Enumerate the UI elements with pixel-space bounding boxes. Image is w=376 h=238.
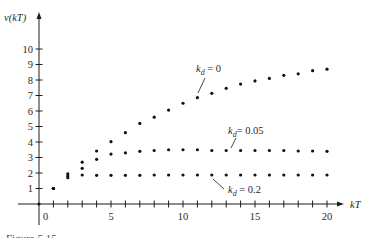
data-point (210, 149, 213, 152)
data-point (282, 173, 285, 176)
data-point (239, 149, 242, 152)
data-point (124, 131, 127, 134)
y-tick-label: 7 (28, 90, 33, 101)
data-point (239, 82, 242, 85)
data-point (167, 108, 170, 111)
y-tick-label: 6 (28, 106, 33, 117)
x-tick-label: 10 (178, 211, 189, 222)
data-point (311, 173, 314, 176)
leader-line (213, 179, 224, 189)
x-tick-label: 0 (43, 211, 48, 222)
data-point (282, 149, 285, 152)
data-point (95, 158, 98, 161)
data-point (196, 173, 199, 176)
x-axis-label: kT (350, 199, 362, 210)
data-point (225, 149, 228, 152)
data-point (153, 116, 156, 119)
data-point (325, 150, 328, 153)
x-tick-label: 5 (108, 211, 113, 222)
axes: kTv(kT) (4, 12, 362, 225)
data-point (325, 173, 328, 176)
series-0 (52, 68, 329, 191)
series-1 (52, 148, 329, 190)
data-point (225, 173, 228, 176)
axis-ticks (36, 49, 328, 208)
data-point (138, 174, 141, 177)
data-point (181, 102, 184, 105)
data-point (210, 173, 213, 176)
data-point (239, 173, 242, 176)
y-tick-label: 8 (28, 75, 33, 86)
series-label: kd = 0.2 (228, 184, 261, 198)
data-point (268, 77, 271, 80)
data-point (109, 152, 112, 155)
x-tick-label: 20 (322, 211, 333, 222)
data-point (124, 174, 127, 177)
data-point (81, 161, 84, 164)
leader-line (231, 138, 236, 148)
series-label: kd = 0 (196, 63, 221, 77)
y-axis-label: v(kT) (4, 12, 27, 24)
data-point (297, 173, 300, 176)
data-point (297, 72, 300, 75)
chart: kTv(kT) 0510152012345678910 kd = 0kd= 0.… (0, 0, 376, 238)
y-tick-label: 9 (28, 59, 33, 70)
data-point (167, 148, 170, 151)
series-label: kd= 0.05 (228, 125, 264, 139)
data-point (268, 149, 271, 152)
data-point (282, 74, 285, 77)
data-point (196, 96, 199, 99)
data-point (253, 173, 256, 176)
x-axis-arrow-icon (337, 202, 344, 207)
data-point (297, 149, 300, 152)
y-axis-arrow-icon (37, 12, 42, 19)
data-point (181, 148, 184, 151)
data-point (225, 87, 228, 90)
series-annotations: kd = 0kd= 0.05kd = 0.2 (196, 63, 264, 198)
data-point (124, 151, 127, 154)
data-points (52, 68, 329, 191)
data-point (268, 173, 271, 176)
data-point (138, 122, 141, 125)
y-tick-label: 4 (28, 137, 34, 148)
data-point (109, 140, 112, 143)
data-point (167, 173, 170, 176)
y-tick-label: 1 (28, 183, 33, 194)
data-point (210, 92, 213, 95)
leader-line (198, 78, 205, 93)
figure-caption: Figure 5.15 (6, 232, 57, 238)
x-tick-label: 15 (250, 211, 261, 222)
data-point (311, 149, 314, 152)
data-point (81, 167, 84, 170)
data-point (196, 148, 199, 151)
data-point (81, 173, 84, 176)
data-point (153, 149, 156, 152)
y-tick-label: 3 (28, 152, 33, 163)
data-point (109, 174, 112, 177)
y-tick-label: 10 (23, 44, 34, 55)
data-point (311, 69, 314, 72)
origin-marker (37, 202, 40, 205)
data-point (325, 68, 328, 71)
data-point (52, 187, 55, 190)
data-point (138, 150, 141, 153)
data-point (253, 149, 256, 152)
data-point (95, 174, 98, 177)
data-point (253, 79, 256, 82)
data-point (153, 173, 156, 176)
data-point (66, 176, 69, 179)
series-2 (52, 173, 329, 190)
y-tick-label: 2 (28, 168, 33, 179)
data-point (181, 173, 184, 176)
y-tick-label: 5 (28, 121, 33, 132)
data-point (95, 149, 98, 152)
tick-labels: 0510152012345678910 (23, 44, 333, 223)
